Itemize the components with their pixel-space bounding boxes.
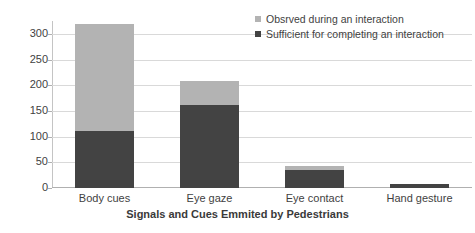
y-axis-labels: 050100150200250300 bbox=[0, 21, 48, 188]
y-axis-tick-label: 200 bbox=[2, 79, 48, 90]
x-axis-category-label: Eye gaze bbox=[150, 192, 270, 205]
y-axis-tick-label: 0 bbox=[2, 182, 48, 193]
y-axis-tick-label: 250 bbox=[2, 54, 48, 65]
bar-segment-sufficient[interactable] bbox=[75, 131, 134, 188]
x-axis-title: Signals and Cues Emmited by Pedestrians bbox=[0, 208, 475, 220]
x-axis-category-labels: Body cuesEye gazeEye contactHand gesture bbox=[52, 192, 472, 208]
x-axis-category-label: Hand gesture bbox=[360, 192, 475, 205]
bar-segment-sufficient[interactable] bbox=[285, 170, 344, 188]
legend-item-sufficient[interactable]: Sufficient for completing an interaction bbox=[255, 27, 470, 41]
legend-item-label: Obsrved during an interaction bbox=[266, 13, 404, 25]
bar-segment-observed[interactable] bbox=[75, 24, 134, 132]
bar-segment-sufficient[interactable] bbox=[180, 105, 239, 188]
y-axis-tick-label: 50 bbox=[2, 156, 48, 167]
plot-area bbox=[52, 21, 472, 188]
chart-legend: Obsrved during an interaction Sufficient… bbox=[255, 12, 470, 42]
legend-item-label: Sufficient for completing an interaction bbox=[266, 28, 444, 40]
stacked-bar-chart: 050100150200250300 Body cuesEye gazeEye … bbox=[0, 0, 475, 233]
y-axis-tick-mark bbox=[48, 85, 52, 86]
y-axis-tick-label: 300 bbox=[2, 28, 48, 39]
bar-segment-observed[interactable] bbox=[180, 81, 239, 105]
y-axis-tick-mark bbox=[48, 137, 52, 138]
bar-eye-contact[interactable] bbox=[285, 166, 344, 188]
y-axis-tick-label: 100 bbox=[2, 131, 48, 142]
bar-segment-sufficient[interactable] bbox=[390, 184, 449, 188]
legend-swatch-icon bbox=[255, 31, 261, 37]
legend-item-observed[interactable]: Obsrved during an interaction bbox=[255, 12, 470, 26]
bar-body-cues[interactable] bbox=[75, 24, 134, 188]
x-axis-category-label: Body cues bbox=[45, 192, 165, 205]
x-axis-category-label: Eye contact bbox=[255, 192, 375, 205]
y-axis-tick-mark bbox=[48, 162, 52, 163]
bar-hand-gesture[interactable] bbox=[390, 184, 449, 188]
y-axis-tick-mark bbox=[48, 111, 52, 112]
y-axis-tick-label: 150 bbox=[2, 105, 48, 116]
bar-eye-gaze[interactable] bbox=[180, 81, 239, 188]
y-axis-tick-mark bbox=[48, 34, 52, 35]
legend-swatch-icon bbox=[255, 16, 261, 22]
y-axis-tick-mark bbox=[48, 60, 52, 61]
y-axis-tick-mark bbox=[48, 188, 52, 189]
